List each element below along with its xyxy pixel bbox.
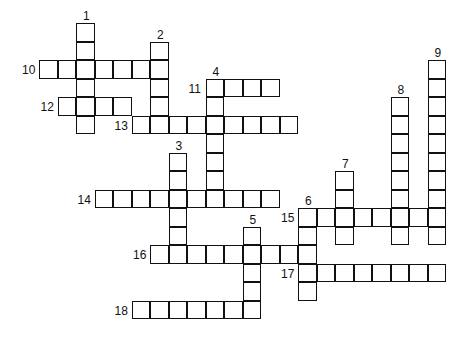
crossword-cell[interactable]	[261, 116, 280, 135]
crossword-cell[interactable]	[206, 190, 225, 209]
crossword-cell[interactable]	[187, 245, 206, 264]
crossword-cell[interactable]	[169, 245, 188, 264]
crossword-cell[interactable]	[206, 79, 225, 98]
crossword-cell[interactable]	[243, 227, 262, 246]
crossword-cell[interactable]	[391, 134, 410, 153]
crossword-cell[interactable]	[391, 208, 410, 227]
crossword-cell[interactable]	[187, 301, 206, 320]
crossword-cell[interactable]	[150, 60, 169, 79]
crossword-cell[interactable]	[428, 227, 447, 246]
crossword-cell[interactable]	[206, 245, 225, 264]
crossword-cell[interactable]	[150, 42, 169, 61]
crossword-cell[interactable]	[58, 60, 77, 79]
crossword-cell[interactable]	[113, 60, 132, 79]
crossword-cell[interactable]	[169, 208, 188, 227]
crossword-cell[interactable]	[95, 190, 114, 209]
crossword-cell[interactable]	[335, 227, 354, 246]
crossword-cell[interactable]	[428, 60, 447, 79]
crossword-cell[interactable]	[76, 79, 95, 98]
crossword-cell[interactable]	[391, 171, 410, 190]
crossword-cell[interactable]	[58, 97, 77, 116]
crossword-cell[interactable]	[354, 208, 373, 227]
crossword-cell[interactable]	[76, 97, 95, 116]
crossword-cell[interactable]	[206, 301, 225, 320]
crossword-cell[interactable]	[132, 301, 151, 320]
crossword-cell[interactable]	[335, 264, 354, 283]
crossword-cell[interactable]	[206, 134, 225, 153]
crossword-cell[interactable]	[113, 97, 132, 116]
crossword-cell[interactable]	[206, 171, 225, 190]
crossword-cell[interactable]	[187, 116, 206, 135]
crossword-cell[interactable]	[335, 171, 354, 190]
crossword-cell[interactable]	[261, 190, 280, 209]
crossword-cell[interactable]	[169, 171, 188, 190]
crossword-cell[interactable]	[206, 116, 225, 135]
crossword-cell[interactable]	[150, 116, 169, 135]
crossword-cell[interactable]	[391, 97, 410, 116]
crossword-cell[interactable]	[243, 301, 262, 320]
crossword-cell[interactable]	[169, 116, 188, 135]
crossword-cell[interactable]	[280, 116, 299, 135]
crossword-cell[interactable]	[335, 208, 354, 227]
crossword-cell[interactable]	[243, 79, 262, 98]
crossword-cell[interactable]	[187, 190, 206, 209]
crossword-cell[interactable]	[391, 153, 410, 172]
crossword-cell[interactable]	[224, 301, 243, 320]
crossword-cell[interactable]	[298, 282, 317, 301]
crossword-cell[interactable]	[298, 227, 317, 246]
crossword-cell[interactable]	[169, 301, 188, 320]
crossword-cell[interactable]	[95, 60, 114, 79]
crossword-cell[interactable]	[243, 282, 262, 301]
crossword-cell[interactable]	[150, 97, 169, 116]
crossword-cell[interactable]	[317, 208, 336, 227]
crossword-cell[interactable]	[391, 227, 410, 246]
crossword-cell[interactable]	[428, 208, 447, 227]
crossword-cell[interactable]	[132, 116, 151, 135]
crossword-cell[interactable]	[113, 190, 132, 209]
crossword-cell[interactable]	[317, 264, 336, 283]
crossword-cell[interactable]	[372, 264, 391, 283]
crossword-cell[interactable]	[169, 153, 188, 172]
crossword-cell[interactable]	[298, 245, 317, 264]
crossword-cell[interactable]	[298, 208, 317, 227]
crossword-cell[interactable]	[409, 208, 428, 227]
crossword-cell[interactable]	[428, 190, 447, 209]
crossword-cell[interactable]	[224, 190, 243, 209]
crossword-cell[interactable]	[132, 190, 151, 209]
crossword-cell[interactable]	[243, 190, 262, 209]
crossword-cell[interactable]	[335, 190, 354, 209]
crossword-cell[interactable]	[428, 116, 447, 135]
crossword-cell[interactable]	[428, 134, 447, 153]
crossword-cell[interactable]	[243, 264, 262, 283]
crossword-cell[interactable]	[224, 116, 243, 135]
crossword-cell[interactable]	[206, 97, 225, 116]
crossword-cell[interactable]	[261, 79, 280, 98]
crossword-cell[interactable]	[391, 190, 410, 209]
crossword-cell[interactable]	[169, 190, 188, 209]
crossword-cell[interactable]	[224, 245, 243, 264]
crossword-cell[interactable]	[150, 190, 169, 209]
crossword-cell[interactable]	[391, 264, 410, 283]
crossword-cell[interactable]	[428, 153, 447, 172]
crossword-cell[interactable]	[354, 264, 373, 283]
crossword-cell[interactable]	[261, 245, 280, 264]
crossword-cell[interactable]	[132, 60, 151, 79]
crossword-cell[interactable]	[76, 23, 95, 42]
crossword-cell[interactable]	[206, 153, 225, 172]
crossword-cell[interactable]	[428, 171, 447, 190]
crossword-cell[interactable]	[409, 264, 428, 283]
crossword-cell[interactable]	[95, 97, 114, 116]
crossword-cell[interactable]	[76, 42, 95, 61]
crossword-cell[interactable]	[150, 245, 169, 264]
crossword-cell[interactable]	[372, 208, 391, 227]
crossword-cell[interactable]	[428, 79, 447, 98]
crossword-cell[interactable]	[76, 116, 95, 135]
crossword-cell[interactable]	[150, 301, 169, 320]
crossword-cell[interactable]	[243, 245, 262, 264]
crossword-cell[interactable]	[243, 116, 262, 135]
crossword-cell[interactable]	[76, 60, 95, 79]
crossword-cell[interactable]	[298, 264, 317, 283]
crossword-cell[interactable]	[280, 245, 299, 264]
crossword-cell[interactable]	[224, 79, 243, 98]
crossword-cell[interactable]	[169, 227, 188, 246]
